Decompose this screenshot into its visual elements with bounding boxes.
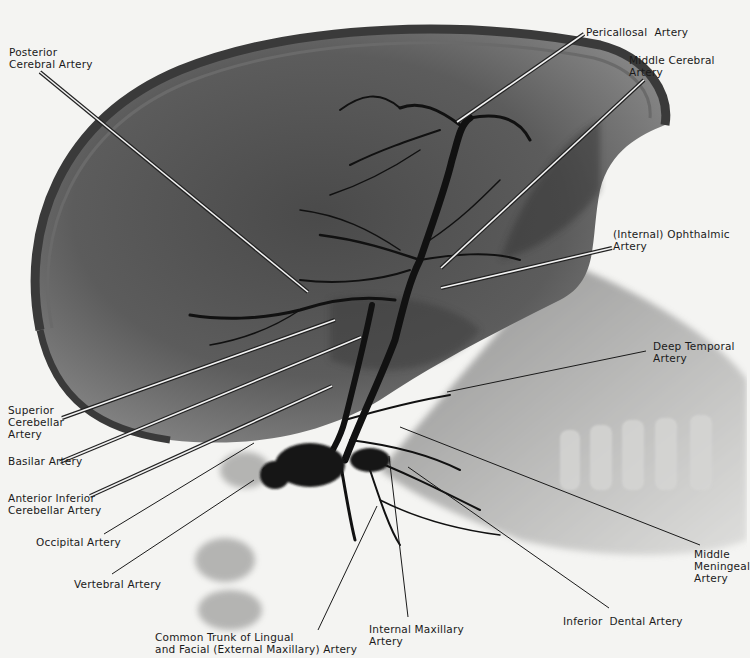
label-occipital-artery: Occipital Artery (36, 536, 121, 548)
label-pericallosal-artery: Pericallosal Artery (586, 26, 688, 38)
label-internal-maxillary-artery: Internal Maxillary Artery (369, 623, 464, 647)
label-common-trunk-artery: Common Trunk of Lingual and Facial (Exte… (155, 631, 357, 655)
label-anterior-inferior-cerebellar-artery: Anterior Inferior Cerebellar Artery (8, 492, 101, 516)
label-posterior-cerebral-artery: Posterior Cerebral Artery (9, 46, 93, 70)
label-middle-cerebral-artery: Middle Cerebral Artery (629, 54, 715, 78)
label-inferior-dental-artery: Inferior Dental Artery (563, 615, 683, 627)
label-superior-cerebellar-artery: Superior Cerebellar Artery (8, 404, 64, 440)
label-ophthalmic-artery: (Internal) Ophthalmic Artery (613, 228, 730, 252)
label-middle-meningeal-artery: Middle Meningeal Artery (694, 548, 750, 584)
label-basilar-artery: Basilar Artery (8, 455, 82, 467)
label-vertebral-artery: Vertebral Artery (74, 578, 161, 590)
label-deep-temporal-artery: Deep Temporal Artery (653, 340, 735, 364)
